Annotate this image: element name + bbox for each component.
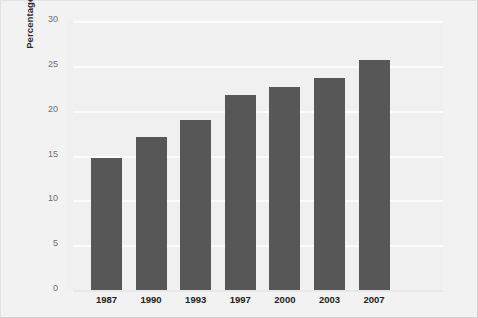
y-tick-label: 5 [53,238,58,248]
y-tick-label: 0 [53,283,58,293]
bar [314,78,345,291]
bar [269,87,300,290]
y-tick-label: 30 [48,14,58,24]
y-tick-label: 10 [48,193,58,203]
bar [91,158,122,290]
bar [136,137,167,290]
y-tick-label: 20 [48,104,58,114]
bar [359,60,390,290]
y-axis-title: Percentage of Full-Time Sworn Personnel [22,0,38,65]
bar [225,95,256,290]
bar [180,120,211,290]
y-tick-label: 15 [48,149,58,159]
axis-baseline [73,290,443,292]
x-tick-label: 2007 [348,294,400,305]
plot-area: 051015202530 [67,21,443,290]
y-tick-label: 25 [48,59,58,69]
x-axis-labels: 1987199019931997200020032007 [67,294,443,310]
bar-series [67,21,443,290]
bar-chart-figure: Percentage of Full-Time Sworn Personnel … [0,0,478,318]
